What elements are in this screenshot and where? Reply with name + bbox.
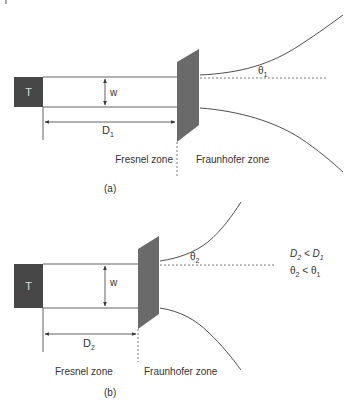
caption-b: (b) — [104, 387, 116, 398]
transmitter-a: T — [14, 77, 43, 107]
width-label-b: w — [109, 277, 118, 288]
aperture-plate-b — [138, 236, 159, 329]
aperture-plate-a — [177, 49, 199, 142]
fraunhofer-zone-label-a: Fraunhofer zone — [196, 154, 270, 165]
beam-upper-curve-a — [200, 15, 343, 75]
fraunhofer-zone-label-b: Fraunhofer zone — [144, 366, 218, 377]
transmitter-label-a: T — [25, 86, 32, 98]
width-label-a: w — [109, 87, 118, 98]
panel-a: T w D1 θ1 Fresnel zone Fraunhofer zone (… — [14, 15, 343, 194]
distance-label-b: D2 — [83, 337, 95, 351]
fresnel-zone-label-a: Fresnel zone — [115, 154, 173, 165]
fresnel-zone-label-b: Fresnel zone — [55, 366, 113, 377]
beam-upper-curve-b — [160, 202, 241, 261]
caption-a: (a) — [104, 183, 116, 194]
distance-label-a: D1 — [102, 124, 114, 138]
relation-angle: θ2 < θ1 — [290, 265, 320, 278]
relation-distance: D2 < D1 — [290, 248, 324, 261]
diffraction-diagram: T w D1 θ1 Fresnel zone Fraunhofer zone (… — [0, 0, 352, 408]
transmitter-label-b: T — [25, 280, 32, 292]
angle-label-b: θ2 — [190, 251, 200, 264]
angle-label-a: θ1 — [258, 65, 268, 78]
panel-b: T w D2 θ2 D2 < D1 θ2 < θ1 Fresnel zone F… — [14, 202, 324, 398]
transmitter-b: T — [14, 264, 43, 308]
beam-lower-curve-b — [160, 308, 241, 370]
